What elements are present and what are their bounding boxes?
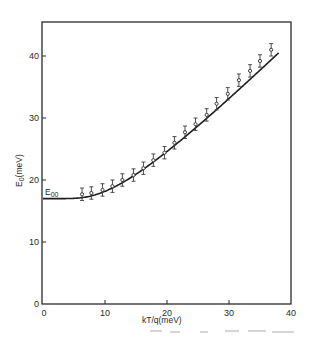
- data-marker: [194, 123, 197, 126]
- x-tick-label: 0: [41, 308, 46, 318]
- data-point: [269, 44, 273, 56]
- caption-bleed-through: [150, 330, 294, 333]
- data-point: [89, 187, 93, 199]
- data-marker: [173, 141, 176, 144]
- data-marker: [132, 173, 135, 176]
- data-marker: [215, 102, 218, 105]
- data-point: [258, 55, 262, 67]
- plot-frame: [42, 22, 291, 304]
- data-point: [110, 180, 114, 192]
- data-marker: [152, 159, 155, 162]
- data-marker: [101, 188, 104, 191]
- data-marker: [163, 151, 166, 154]
- data-point: [101, 184, 105, 196]
- data-point: [132, 169, 136, 181]
- x-tick-label: 40: [286, 308, 296, 318]
- data-point: [237, 74, 241, 86]
- y-tick-label: 20: [29, 175, 39, 185]
- x-tick-label: 30: [224, 308, 234, 318]
- e00-annotation: E00: [45, 187, 59, 198]
- y-tick-label: 30: [29, 113, 39, 123]
- data-point: [163, 147, 167, 159]
- data-points: [80, 44, 273, 201]
- data-marker: [248, 69, 251, 72]
- data-marker: [90, 191, 93, 194]
- data-marker: [270, 48, 273, 51]
- data-marker: [237, 79, 240, 82]
- data-marker: [183, 131, 186, 134]
- data-marker: [142, 167, 145, 170]
- data-marker: [258, 59, 261, 62]
- data-marker: [111, 185, 114, 188]
- data-point: [248, 65, 252, 77]
- chart: 010203040 010203040 E00 kT/q(meV) E0(meV…: [0, 0, 309, 341]
- fit-curve: [43, 53, 279, 199]
- y-axis: 010203040: [29, 51, 46, 309]
- e00-annotation-sub: 00: [51, 191, 59, 198]
- y-tick-label: 0: [34, 299, 39, 309]
- x-tick-label: 10: [100, 308, 110, 318]
- data-point: [151, 154, 155, 166]
- data-marker: [226, 92, 229, 95]
- data-point: [141, 162, 145, 174]
- y-axis-label: E0(meV): [14, 154, 25, 187]
- data-marker: [205, 113, 208, 116]
- x-axis-label: kT/q(meV): [142, 315, 182, 325]
- y-tick-label: 10: [29, 237, 39, 247]
- y-tick-label: 40: [29, 51, 39, 61]
- data-marker: [121, 178, 124, 181]
- data-marker: [80, 193, 83, 196]
- y-axis-label-unit: (meV): [14, 154, 24, 177]
